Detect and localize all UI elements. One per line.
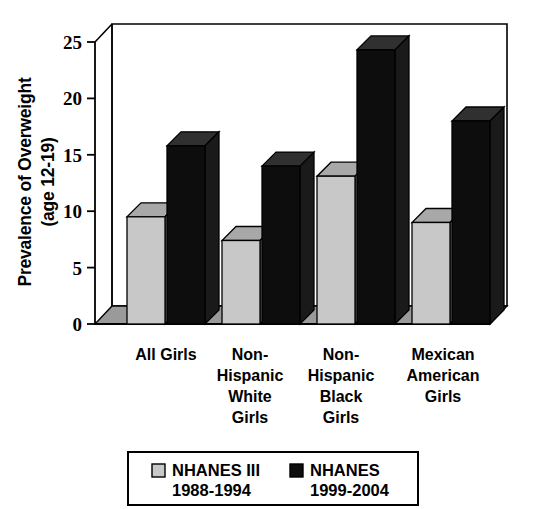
depth-edge-top-left xyxy=(95,24,112,42)
category-label-all-girls-line1: All Girls xyxy=(135,346,196,363)
legend-label-series1-line2: 1988-1994 xyxy=(172,481,252,499)
y-tick-label-0: 0 xyxy=(73,314,83,335)
y-axis-ticks xyxy=(87,42,95,324)
bar-chart: 25 20 15 10 5 0 Prevalence of Overweight… xyxy=(0,0,547,509)
bar-front-face xyxy=(222,241,260,325)
y-tick-label-20: 20 xyxy=(63,88,82,109)
x-axis-category-labels: All Girls Non- Hispanic White Girls Non-… xyxy=(135,346,479,426)
bar-nhanes-non-hispanic-white-girls[interactable] xyxy=(262,152,314,324)
chart-container: 25 20 15 10 5 0 Prevalence of Overweight… xyxy=(0,0,547,509)
legend-label-series2-line1: NHANES xyxy=(310,461,380,479)
legend-swatch-icon-series2 xyxy=(290,464,303,477)
bar-side-face xyxy=(395,36,409,324)
bar-nhanes-mexican-american-girls[interactable] xyxy=(452,107,504,324)
bar-nhanes-all-girls[interactable] xyxy=(167,132,219,324)
legend-label-series2-line2: 1999-2004 xyxy=(310,481,390,499)
bar-front-face xyxy=(452,121,490,324)
category-label-ma-line1: Mexican xyxy=(411,346,474,363)
y-axis-tick-labels: 25 20 15 10 5 0 xyxy=(63,32,82,335)
category-label-nhb-line3: Black xyxy=(320,388,363,405)
bar-front-face xyxy=(262,166,300,324)
bar-front-face xyxy=(167,146,205,324)
legend-swatch-icon-series1 xyxy=(152,464,165,477)
legend-label-series1-line1: NHANES III xyxy=(172,461,260,479)
y-tick-label-5: 5 xyxy=(73,258,83,279)
category-label-nhw-line4: Girls xyxy=(232,409,269,426)
category-label-nhb-line4: Girls xyxy=(323,409,360,426)
bar-nhanes-non-hispanic-black-girls[interactable] xyxy=(357,36,409,324)
bar-front-face xyxy=(317,176,355,324)
bar-front-face xyxy=(412,223,450,325)
y-tick-label-15: 15 xyxy=(63,145,82,166)
y-axis-title: Prevalence of Overweight (age 12-19) xyxy=(15,77,58,287)
bar-side-face xyxy=(490,107,504,324)
y-axis-title-line2: (age 12-19) xyxy=(38,137,58,226)
y-axis-title-line1: Prevalence of Overweight xyxy=(15,77,35,287)
category-label-ma-line3: Girls xyxy=(425,388,462,405)
bar-side-face xyxy=(300,152,314,324)
y-tick-label-25: 25 xyxy=(63,32,82,53)
bar-side-face xyxy=(205,132,219,324)
category-label-nhb-line2: Hispanic xyxy=(308,367,375,384)
legend: NHANES III 1988-1994 NHANES 1999-2004 xyxy=(128,452,418,505)
category-label-nhw-line2: Hispanic xyxy=(217,367,284,384)
category-label-nhb-line1: Non- xyxy=(323,346,359,363)
y-tick-label-10: 10 xyxy=(63,201,82,222)
category-label-ma-line2: American xyxy=(407,367,480,384)
bar-front-face xyxy=(127,217,165,324)
bar-front-face xyxy=(357,50,395,324)
category-label-nhw-line3: White xyxy=(228,388,272,405)
category-label-nhw-line1: Non- xyxy=(232,346,268,363)
